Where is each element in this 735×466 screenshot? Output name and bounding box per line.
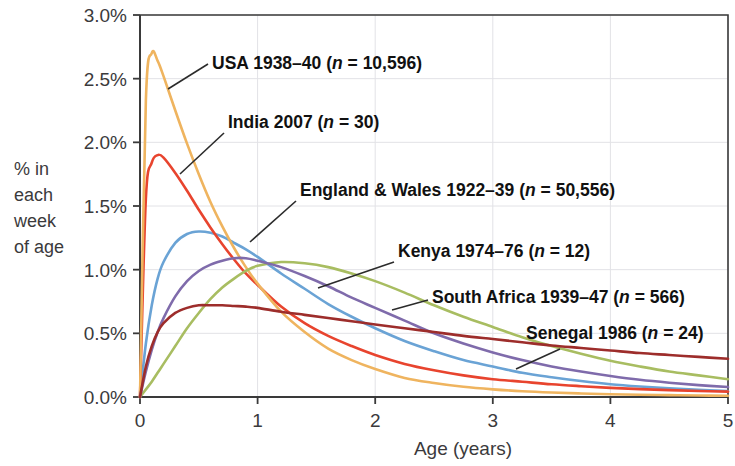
- y-tick-label: 0.5%: [84, 323, 127, 344]
- series-label-suffix: = 24): [658, 323, 703, 343]
- series-label-prefix: USA 1938–40 (: [212, 53, 332, 73]
- y-axis-title-line: of age: [14, 237, 64, 257]
- y-tick-label: 2.5%: [84, 69, 127, 90]
- series-label-suffix: = 566): [630, 287, 685, 307]
- series-label-india-2007: India 2007 (n = 30): [228, 112, 379, 132]
- x-tick-label: 3: [488, 410, 499, 431]
- series-label-n-italic: n: [619, 287, 630, 307]
- series-label-prefix: Senegal 1986 (: [526, 323, 648, 343]
- y-tick-label: 0.0%: [84, 387, 127, 408]
- series-label-n-italic: n: [534, 241, 545, 261]
- series-label-suffix: = 10,596): [343, 53, 422, 73]
- y-tick-label: 2.0%: [84, 132, 127, 153]
- series-label-prefix: South Africa 1939–47 (: [432, 287, 619, 307]
- y-tick-label: 1.0%: [84, 260, 127, 281]
- series-label-n-italic: n: [525, 180, 536, 200]
- y-axis-title-line: % in: [14, 159, 49, 179]
- mortality-age-distribution-chart: 0.0%0.5%1.0%1.5%2.0%2.5%3.0% 012345 % in…: [0, 0, 735, 466]
- series-label-prefix: India 2007 (: [228, 112, 323, 132]
- x-tick-label: 2: [370, 410, 381, 431]
- series-label-england-wales-1922-39: England & Wales 1922–39 (n = 50,556): [300, 180, 615, 200]
- chart-figure: 0.0%0.5%1.0%1.5%2.0%2.5%3.0% 012345 % in…: [0, 0, 735, 466]
- series-label-prefix: England & Wales 1922–39 (: [300, 180, 525, 200]
- series-label-senegal-1986: Senegal 1986 (n = 24): [526, 323, 704, 343]
- y-tick-label: 1.5%: [84, 196, 127, 217]
- series-label-suffix: = 50,556): [536, 180, 615, 200]
- series-label-suffix: = 30): [334, 112, 379, 132]
- y-tick-label: 3.0%: [84, 5, 127, 26]
- x-tick-label: 4: [605, 410, 616, 431]
- series-label-prefix: Kenya 1974–76 (: [398, 241, 534, 261]
- x-tick-label: 1: [252, 410, 263, 431]
- x-tick-label: 5: [723, 410, 734, 431]
- x-tick-label: 0: [135, 410, 146, 431]
- series-label-usa-1938-40: USA 1938–40 (n = 10,596): [212, 53, 422, 73]
- series-label-kenya-1974-76: Kenya 1974–76 (n = 12): [398, 241, 590, 261]
- y-axis-title-line: week: [13, 211, 57, 231]
- series-label-south-africa-1939-47: South Africa 1939–47 (n = 566): [432, 287, 685, 307]
- series-label-n-italic: n: [323, 112, 334, 132]
- y-axis-title-line: each: [14, 185, 53, 205]
- series-label-n-italic: n: [332, 53, 343, 73]
- series-label-n-italic: n: [648, 323, 659, 343]
- series-label-suffix: = 12): [545, 241, 590, 261]
- x-axis-title: Age (years): [414, 438, 512, 459]
